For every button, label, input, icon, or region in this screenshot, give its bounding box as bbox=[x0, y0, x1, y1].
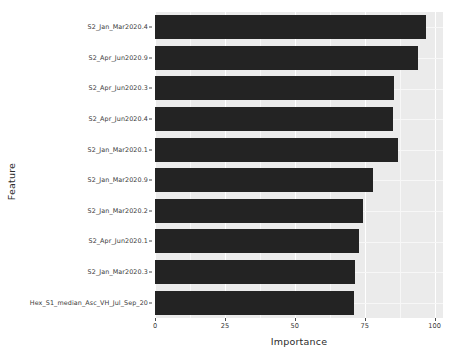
y-tick-row: S2_Apr_Jun2020.9 bbox=[16, 43, 152, 74]
y-tick-label: S2_Jan_Mar2020.1 bbox=[88, 146, 152, 154]
plot-panel bbox=[155, 12, 443, 318]
y-tick-mark bbox=[149, 272, 152, 273]
y-tick-label: S2_Jan_Mar2020.2 bbox=[88, 207, 152, 215]
y-tick-row: S2_Jan_Mar2020.3 bbox=[16, 257, 152, 288]
bar[interactable] bbox=[155, 260, 355, 284]
y-tick-row: S2_Apr_Jun2020.1 bbox=[16, 226, 152, 257]
y-tick-mark bbox=[149, 180, 152, 181]
x-tick-mark bbox=[365, 318, 366, 321]
y-tick-row: S2_Jan_Mar2020.4 bbox=[16, 12, 152, 43]
bar-slot bbox=[155, 104, 443, 135]
bar[interactable] bbox=[155, 138, 398, 162]
x-axis: 0255075100 bbox=[155, 318, 443, 334]
y-tick-mark bbox=[149, 57, 152, 58]
bar-slot bbox=[155, 165, 443, 196]
y-tick-label: S2_Apr_Jun2020.1 bbox=[88, 237, 152, 245]
bar-slot bbox=[155, 134, 443, 165]
y-tick-row: S2_Apr_Jun2020.4 bbox=[16, 104, 152, 135]
bar[interactable] bbox=[155, 229, 359, 253]
y-axis-title-text: Feature bbox=[7, 163, 18, 200]
bar[interactable] bbox=[155, 168, 373, 192]
bar-slot bbox=[155, 226, 443, 257]
bar-slot bbox=[155, 73, 443, 104]
bar[interactable] bbox=[155, 291, 354, 315]
x-tick-mark bbox=[435, 318, 436, 321]
y-tick-label: S2_Apr_Jun2020.9 bbox=[88, 54, 152, 62]
bar[interactable] bbox=[155, 107, 393, 131]
x-tick-mark bbox=[295, 318, 296, 321]
x-tick-mark bbox=[155, 318, 156, 321]
y-tick-mark bbox=[149, 241, 152, 242]
x-tick-label: 25 bbox=[221, 322, 229, 330]
x-tick-label: 50 bbox=[291, 322, 299, 330]
x-tick-mark bbox=[225, 318, 226, 321]
bar[interactable] bbox=[155, 46, 418, 70]
bar-slot bbox=[155, 12, 443, 43]
y-tick-mark bbox=[149, 210, 152, 211]
y-tick-label: S2_Jan_Mar2020.9 bbox=[88, 176, 152, 184]
bar-slot bbox=[155, 196, 443, 227]
y-tick-label: S2_Jan_Mar2020.3 bbox=[88, 268, 152, 276]
bar-series bbox=[155, 12, 443, 318]
y-tick-label: S2_Apr_Jun2020.3 bbox=[88, 84, 152, 92]
y-tick-mark bbox=[149, 88, 152, 89]
y-tick-mark bbox=[149, 302, 152, 303]
y-tick-mark bbox=[149, 119, 152, 120]
y-axis-title: Feature bbox=[0, 0, 24, 363]
y-tick-label: Hex_S1_median_Asc_VH_Jul_Sep_20 bbox=[30, 299, 152, 307]
bar-slot bbox=[155, 287, 443, 318]
y-tick-row: S2_Apr_Jun2020.3 bbox=[16, 73, 152, 104]
y-axis-tick-labels: S2_Jan_Mar2020.4 S2_Apr_Jun2020.9 S2_Apr… bbox=[16, 12, 152, 318]
bar[interactable] bbox=[155, 15, 426, 39]
y-tick-row: S2_Jan_Mar2020.1 bbox=[16, 134, 152, 165]
x-tick-label: 100 bbox=[428, 322, 441, 330]
x-axis-title: Importance bbox=[155, 336, 443, 347]
y-tick-label: S2_Jan_Mar2020.4 bbox=[88, 23, 152, 31]
y-tick-mark bbox=[149, 149, 152, 150]
bar[interactable] bbox=[155, 76, 394, 100]
bar-slot bbox=[155, 43, 443, 74]
feature-importance-bar-chart: Feature S2_Jan_Mar2020.4 S2_Apr_Jun2020.… bbox=[0, 0, 458, 363]
y-tick-mark bbox=[149, 27, 152, 28]
y-tick-row: Hex_S1_median_Asc_VH_Jul_Sep_20 bbox=[16, 287, 152, 318]
x-tick-label: 75 bbox=[361, 322, 369, 330]
x-tick-label: 0 bbox=[153, 322, 157, 330]
y-tick-label: S2_Apr_Jun2020.4 bbox=[88, 115, 152, 123]
y-tick-row: S2_Jan_Mar2020.2 bbox=[16, 196, 152, 227]
bar[interactable] bbox=[155, 199, 363, 223]
bar-slot bbox=[155, 257, 443, 288]
y-tick-row: S2_Jan_Mar2020.9 bbox=[16, 165, 152, 196]
